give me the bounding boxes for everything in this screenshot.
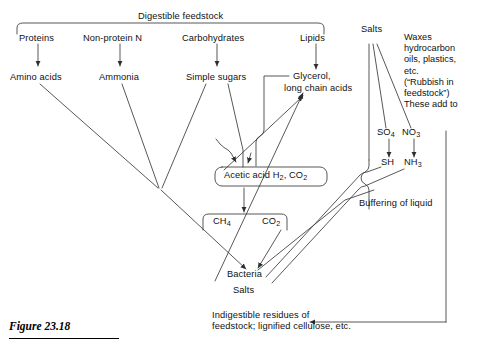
nh3-subscript: 3 (418, 160, 422, 169)
arrow-right-into-acetic-acid (248, 153, 251, 163)
line-lower-left-to-glycerol-b (224, 96, 303, 170)
figure-page: Digestible feedstock Proteins Non-protei… (0, 0, 485, 351)
line-junction-to-bacteria (161, 190, 246, 269)
label-co2: CO2 (262, 216, 280, 230)
rubbish-line-6: feedstock”) (404, 88, 482, 99)
label-long-chain-acids: long chain acids (284, 83, 352, 95)
label-nh3: NH3 (404, 157, 422, 171)
digestible-feedstock-bracket (17, 23, 324, 34)
rubbish-line-5: (“Rubbish in (404, 77, 482, 88)
label-bacteria: Bacteria (227, 269, 262, 281)
rubbish-line-4: etc. (404, 66, 482, 77)
label-sh: SH (381, 157, 394, 169)
no3-text: NO (402, 127, 416, 137)
rubbish-line-3: oils, plastics, (404, 54, 482, 65)
nh3-text: NH (404, 157, 418, 167)
ch4-subscript: 4 (227, 219, 231, 228)
line-simple-sugars-to-junction (162, 84, 206, 188)
rubbish-line-2: hydrocarbon (404, 43, 482, 54)
label-acetic-acid: Acetic acid H2, CO2 (224, 170, 307, 184)
acetic-sub-b: 2 (303, 173, 307, 182)
rubbish-line-7: These add to (404, 99, 482, 110)
arrow-left-into-acetic-acid (216, 139, 236, 162)
so4-subscript: 4 (391, 130, 395, 139)
label-proteins: Proteins (19, 33, 54, 45)
label-ammonia: Ammonia (99, 72, 139, 84)
label-lipids: Lipids (300, 33, 325, 45)
figure-title: Digestible feedstock (138, 11, 223, 23)
so4-text: SO (377, 127, 391, 137)
label-non-protein-n: Non-protein N (83, 33, 142, 45)
label-buffering-of-liquid: Buffering of liquid (359, 198, 433, 210)
line-to-buffering (258, 190, 374, 270)
co2-text: CO (262, 216, 276, 226)
acetic-text-a: Acetic acid H (224, 170, 280, 180)
label-so4: SO4 (377, 127, 395, 141)
label-no3: NO3 (402, 127, 420, 141)
figure-caption: Figure 23.18 (9, 320, 70, 332)
line-salts-to-so4 (373, 44, 386, 128)
label-residues-line-2: feedstock; lignified cellulose, etc. (212, 321, 351, 333)
line-lower-left-to-glycerol-a (215, 93, 303, 281)
caption-underline (9, 338, 119, 339)
rubbish-line-1: Waxes (404, 32, 482, 43)
label-salts-bottom: Salts (233, 285, 254, 297)
label-salts-top: Salts (361, 24, 382, 36)
acetic-text-b: , CO (284, 170, 304, 180)
label-carbohydrates: Carbohydrates (182, 33, 244, 45)
no3-subscript: 3 (416, 130, 420, 139)
co2-subscript: 2 (276, 219, 280, 228)
ch4-text: CH (213, 216, 227, 226)
label-amino-acids: Amino acids (10, 72, 62, 84)
rubbish-note: Waxes hydrocarbon oils, plastics, etc. (… (404, 32, 482, 110)
label-simple-sugars: Simple sugars (186, 72, 246, 84)
label-residues-line-1: Indigestible residues of (212, 310, 310, 322)
label-glycerol: Glycerol, (293, 71, 331, 83)
line-gases-to-bacteria (258, 230, 281, 268)
label-ch4: CH4 (213, 216, 231, 230)
